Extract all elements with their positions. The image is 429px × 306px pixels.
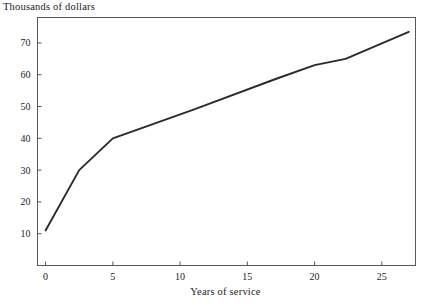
- x-tick-label: 10: [175, 271, 185, 282]
- x-tick-label: 25: [377, 271, 387, 282]
- data-series-group: [46, 32, 409, 231]
- y-tick-label: 70: [21, 37, 31, 48]
- y-tick-label: 40: [21, 133, 31, 144]
- x-axis-title: Years of service: [0, 286, 429, 297]
- x-tick-label: 5: [110, 271, 115, 282]
- x-tick-label: 20: [310, 271, 320, 282]
- plot-frame: [38, 18, 416, 266]
- y-axis-ticks: 10203040506070: [21, 37, 42, 239]
- y-tick-label: 20: [21, 196, 31, 207]
- x-tick-label: 15: [242, 271, 252, 282]
- x-axis-ticks: 0510152025: [43, 262, 387, 282]
- y-tick-label: 60: [21, 69, 31, 80]
- x-tick-label: 0: [43, 271, 48, 282]
- chart-figure: Thousands of dollars 0510152025 10203040…: [0, 0, 429, 306]
- y-tick-label: 10: [21, 228, 31, 239]
- y-tick-label: 50: [21, 101, 31, 112]
- y-tick-label: 30: [21, 165, 31, 176]
- line-chart-plot: 0510152025 10203040506070: [0, 0, 429, 306]
- data-line-salary: [46, 32, 409, 231]
